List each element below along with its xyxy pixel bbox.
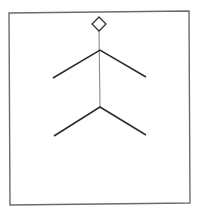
vertical-stem (99, 31, 100, 107)
lower-branch (54, 107, 146, 136)
diagram-canvas (0, 0, 198, 211)
diamond-marker-icon (92, 17, 106, 31)
